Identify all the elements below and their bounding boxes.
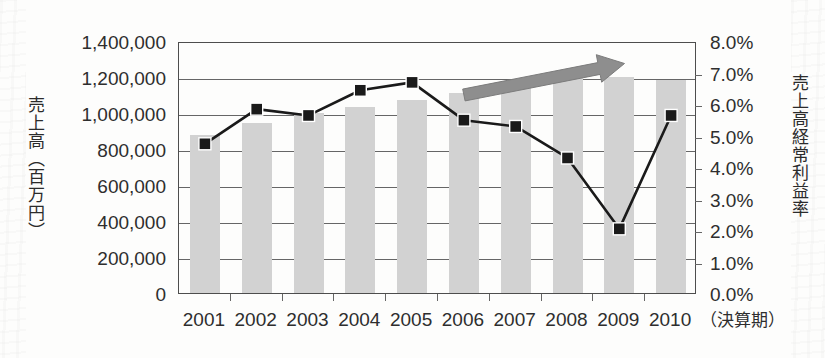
x-axis-tickmark (230, 294, 231, 301)
profit-ratio-line-series (179, 43, 697, 295)
left-axis-title: 売上高（百万円） (26, 96, 43, 240)
x-axis-label-2007: 2007 (494, 310, 536, 329)
left-axis-tick: 200,000 (97, 249, 166, 268)
left-axis-tick: 1,400,000 (81, 33, 166, 52)
data-point-marker-2002 (251, 103, 263, 115)
right-axis-tick: 4.0% (710, 159, 753, 178)
data-point-marker-2008 (562, 152, 574, 164)
x-axis-label-2002: 2002 (235, 310, 277, 329)
x-axis-label-2008: 2008 (545, 310, 587, 329)
x-axis-tickmark (644, 294, 645, 301)
left-axis-tick: 1,000,000 (81, 105, 166, 124)
data-point-marker-2009 (613, 223, 625, 235)
left-axis-tick: 0 (155, 285, 166, 304)
chart-figure: 売上高（百万円） 売上高経常利益率 0200,000400,000600,000… (0, 0, 825, 358)
x-axis-tickmark (282, 294, 283, 301)
x-axis-label-2004: 2004 (338, 310, 380, 329)
x-axis-label-2009: 2009 (597, 310, 639, 329)
x-axis-tickmark (385, 294, 386, 301)
right-axis-tick: 5.0% (710, 127, 753, 146)
profit-ratio-line (205, 82, 671, 228)
right-axis-title: 売上高経常利益率 (790, 74, 807, 218)
left-axis-tick: 600,000 (97, 177, 166, 196)
right-axis-tick: 3.0% (710, 190, 753, 209)
data-point-marker-2004 (354, 84, 366, 96)
right-axis-tick: 0.0% (710, 285, 753, 304)
data-point-marker-2006 (458, 114, 470, 126)
x-axis-tickmark (592, 294, 593, 301)
x-axis-tickmark (541, 294, 542, 301)
data-point-marker-2005 (406, 76, 418, 88)
x-axis-tickmark (437, 294, 438, 301)
data-point-marker-2010 (665, 109, 677, 121)
x-axis-tickmark (489, 294, 490, 301)
right-axis-tick: 1.0% (710, 253, 753, 272)
data-point-marker-2007 (510, 120, 522, 132)
right-axis-tick: 2.0% (710, 222, 753, 241)
data-point-marker-2001 (199, 138, 211, 150)
left-axis-tick: 400,000 (97, 213, 166, 232)
paper-texture-left (0, 0, 26, 358)
left-axis-tick: 1,200,000 (81, 69, 166, 88)
right-axis-tick: 8.0% (710, 33, 753, 52)
right-axis-tick: 7.0% (710, 64, 753, 83)
data-point-marker-2003 (303, 109, 315, 121)
x-axis-label-2010: 2010 (649, 310, 691, 329)
x-axis-label-2005: 2005 (390, 310, 432, 329)
x-axis-title: （決算期） (700, 312, 785, 329)
x-axis-tickmark (333, 294, 334, 301)
x-axis-label-2006: 2006 (442, 310, 484, 329)
plot-area (178, 42, 696, 294)
x-axis-label-2001: 2001 (183, 310, 225, 329)
right-axis-tick: 6.0% (710, 96, 753, 115)
left-axis-tick: 800,000 (97, 141, 166, 160)
x-axis-label-2003: 2003 (286, 310, 328, 329)
